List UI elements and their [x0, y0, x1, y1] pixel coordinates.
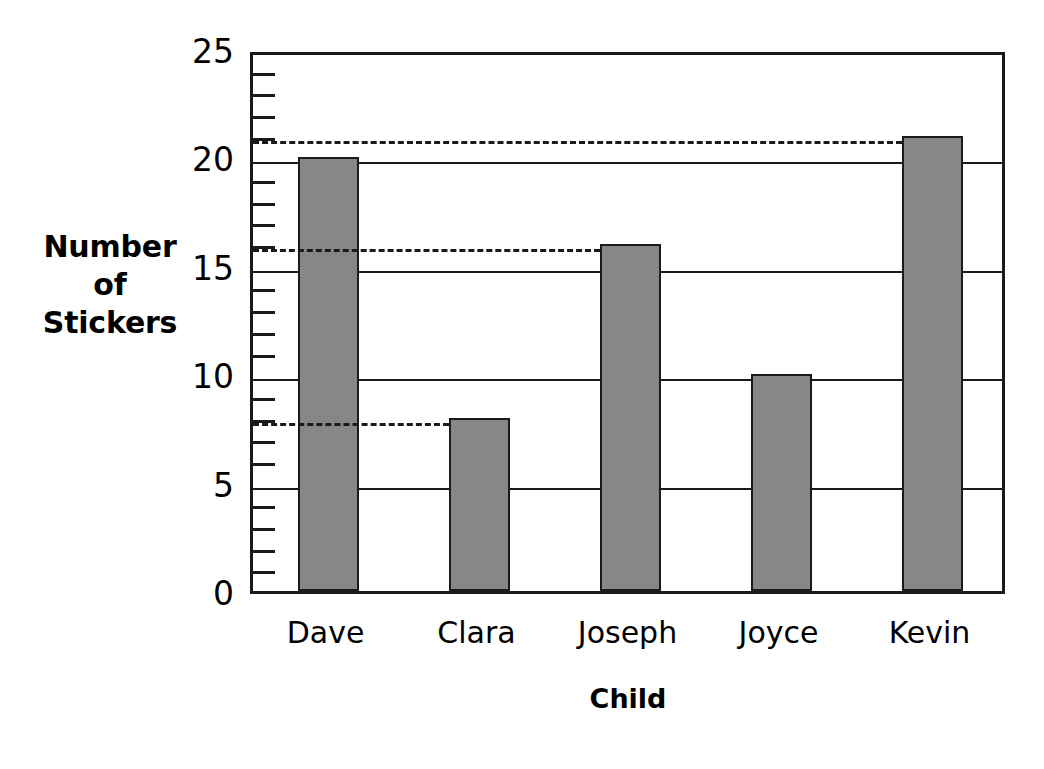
y-minor-tick-8 [253, 420, 275, 423]
y-minor-tick-1 [253, 571, 275, 574]
y-minor-tick-17 [253, 224, 275, 227]
y-axis-title-line-1: Number [20, 228, 200, 266]
y-tick-label-5: 5 [174, 469, 234, 502]
y-minor-tick-23 [253, 94, 275, 97]
reference-line-16 [253, 249, 600, 252]
y-axis-title-line-3: Stickers [20, 304, 200, 342]
y-minor-tick-18 [253, 203, 275, 206]
x-axis-title: Child [250, 683, 1006, 714]
y-minor-tick-14 [253, 289, 275, 292]
y-minor-tick-12 [253, 333, 275, 336]
reference-line-8 [253, 423, 449, 426]
y-tick-label-25: 25 [174, 35, 234, 68]
y-minor-tick-21 [253, 138, 275, 141]
y-minor-tick-16 [253, 246, 275, 249]
y-minor-tick-9 [253, 398, 275, 401]
y-tick-label-15: 15 [174, 252, 234, 285]
y-minor-tick-4 [253, 506, 275, 509]
bar-joseph [600, 244, 661, 591]
gridline-20 [253, 162, 1002, 164]
x-tick-label-kevin: Kevin [854, 618, 1005, 648]
y-minor-tick-19 [253, 181, 275, 184]
y-minor-tick-3 [253, 528, 275, 531]
y-minor-tick-11 [253, 355, 275, 358]
bar-dave [298, 157, 359, 591]
y-minor-tick-24 [253, 73, 275, 76]
x-tick-label-joseph: Joseph [552, 618, 703, 648]
y-minor-tick-7 [253, 441, 275, 444]
y-tick-label-20: 20 [174, 143, 234, 176]
y-axis-title: Number of Stickers [20, 228, 200, 342]
y-minor-tick-22 [253, 116, 275, 119]
reference-line-21 [253, 141, 902, 144]
x-tick-label-joyce: Joyce [703, 618, 854, 648]
y-axis-title-line-2: of [20, 266, 200, 304]
y-minor-tick-6 [253, 463, 275, 466]
y-minor-tick-2 [253, 550, 275, 553]
bar-chart-figure: Number of Stickers 0510152025 DaveClaraJ… [0, 0, 1044, 769]
bar-kevin [902, 136, 963, 591]
plot-area [250, 52, 1005, 594]
x-tick-label-clara: Clara [401, 618, 552, 648]
bar-joyce [751, 374, 812, 591]
y-tick-label-0: 0 [174, 577, 234, 610]
x-tick-label-dave: Dave [250, 618, 401, 648]
bar-clara [449, 418, 510, 591]
y-minor-tick-13 [253, 311, 275, 314]
y-tick-label-10: 10 [174, 360, 234, 393]
